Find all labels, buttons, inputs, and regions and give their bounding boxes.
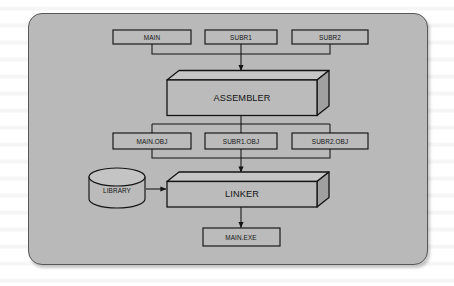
connector-assembler-to-objects bbox=[152, 116, 330, 134]
source-file-label-subr1: SUBR1 bbox=[230, 34, 252, 41]
library-label: LIBRARY bbox=[103, 187, 131, 194]
object-file-label-main-obj: MAIN.OBJ bbox=[137, 138, 168, 145]
executable-label: MAIN.EXE bbox=[225, 234, 256, 241]
object-file-label-subr2-obj: SUBR2.OBJ bbox=[312, 138, 348, 145]
assembler-label: ASSEMBLER bbox=[213, 93, 270, 103]
connector-objects-to-linker bbox=[152, 149, 330, 172]
object-file-label-subr1-obj: SUBR1.OBJ bbox=[223, 138, 259, 145]
source-file-label-main: MAIN bbox=[144, 34, 160, 41]
source-file-label-subr2: SUBR2 bbox=[319, 34, 341, 41]
linker-label: LINKER bbox=[225, 189, 259, 199]
connector-sources-to-assembler bbox=[152, 44, 330, 71]
